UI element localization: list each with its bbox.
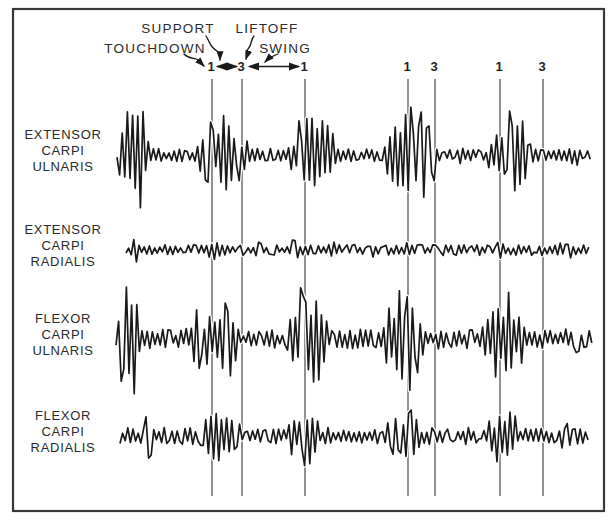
liftoff-label: LIFTOFF: [236, 21, 299, 36]
touchdown-label: TOUCHDOWN: [104, 41, 205, 56]
phase-number-label: 3: [430, 59, 437, 74]
liftoff-pointer-arrow: [246, 36, 254, 59]
muscle-label: EXTENSORCARPIRADIALIS: [24, 222, 101, 269]
support-label: SUPPORT: [141, 21, 214, 36]
muscle-labels: EXTENSORCARPIULNARISEXTENSORCARPIRADIALI…: [24, 127, 101, 455]
phase-number-label: 3: [538, 59, 545, 74]
phase-number-label: 3: [237, 59, 244, 74]
emg-traces: [116, 107, 592, 466]
muscle-label: FLEXORCARPIRADIALIS: [31, 408, 96, 455]
muscle-label: FLEXORCARPIULNARIS: [32, 311, 93, 358]
emg-figure: 1311313 EXTENSORCARPIULNARISEXTENSORCARP…: [0, 0, 613, 521]
support-pointer-arrow: [206, 36, 220, 60]
swing-label: SWING: [259, 41, 311, 56]
phase-number-label: 1: [300, 59, 307, 74]
phase-number-label: 1: [403, 59, 410, 74]
figure-stage: 1311313 EXTENSORCARPIULNARISEXTENSORCARP…: [0, 0, 613, 521]
muscle-label: EXTENSORCARPIULNARIS: [24, 127, 101, 174]
phase-number-label: 1: [495, 59, 502, 74]
emg-trace-flexor-carpi-ulnaris: [116, 287, 592, 394]
phase-number-label: 1: [207, 59, 214, 74]
